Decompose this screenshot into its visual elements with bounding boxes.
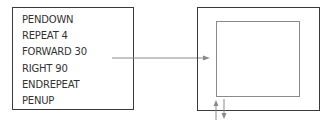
connector-arrow-icon	[112, 56, 210, 61]
turtle-output-diagram	[0, 0, 330, 126]
drawn-square	[217, 22, 300, 97]
pen-down-arrow-icon	[222, 99, 227, 119]
canvas-frame	[198, 8, 320, 111]
